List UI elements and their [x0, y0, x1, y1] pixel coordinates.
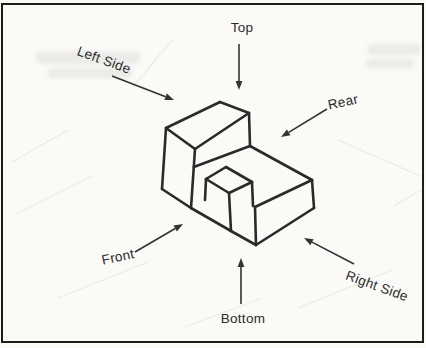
object-edge	[229, 193, 231, 231]
object-edge	[191, 149, 195, 208]
bleedthrough-line	[132, 40, 172, 88]
object-edge	[166, 128, 195, 149]
label-bottom: Bottom	[221, 311, 266, 326]
object-edge	[255, 207, 256, 245]
right-side-arrow-head	[304, 238, 314, 245]
left-side-arrow	[112, 76, 174, 100]
bottom-arrow	[238, 258, 245, 304]
object-edge	[220, 102, 249, 113]
front-arrow-shaft	[135, 229, 175, 252]
object-edge	[252, 182, 253, 206]
object-edge	[312, 180, 314, 208]
object-edge	[231, 231, 256, 245]
object-edge	[255, 180, 312, 207]
object-edge	[162, 128, 166, 189]
right-side-arrow	[304, 238, 354, 264]
label-top: Top	[231, 20, 254, 35]
object-edge	[162, 189, 191, 208]
object-edge	[194, 146, 250, 167]
right-side-arrow-shaft	[312, 242, 354, 264]
bleedthrough-line	[16, 176, 92, 214]
bleedthrough-line	[394, 188, 424, 206]
isometric-view-diagram	[0, 0, 426, 348]
front-arrow	[135, 224, 183, 252]
object-edge	[206, 179, 229, 193]
object-edge	[249, 113, 250, 146]
bottom-arrow-head	[238, 258, 245, 267]
object-edge	[226, 167, 252, 182]
object-edge	[250, 146, 312, 180]
front-arrow-head	[174, 224, 183, 231]
rear-arrow-shaft	[289, 109, 327, 132]
object-edge	[205, 179, 206, 200]
top-arrow	[236, 44, 243, 90]
figure-page: Top Left Side Rear Front Bottom Right Si…	[0, 0, 426, 348]
object-edge	[195, 113, 249, 149]
left-side-arrow-head	[164, 94, 174, 100]
object-edge	[166, 102, 220, 128]
rear-arrow-head	[281, 129, 290, 137]
object-edge	[191, 208, 231, 231]
object-edge	[229, 182, 252, 193]
rear-arrow	[281, 109, 327, 137]
bleedthrough-line	[338, 140, 420, 176]
top-arrow-head	[236, 81, 243, 90]
object-edge	[206, 167, 226, 179]
bleedthrough-line	[12, 130, 68, 162]
